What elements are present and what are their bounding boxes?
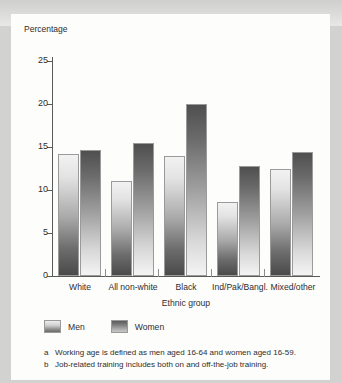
y-tick-label-15: 15 [38, 141, 48, 151]
bar-women-mixed-other[interactable] [292, 152, 313, 276]
x-group-separator [211, 269, 212, 277]
x-category-label-white: White [69, 282, 91, 292]
bar-men-white[interactable] [58, 154, 79, 276]
plot-area: 0 5 10 15 20 [52, 61, 320, 276]
bar-women-ind-pak-bangl[interactable] [239, 166, 260, 276]
footnote-text-a: Working age is defined as men aged 16-64… [55, 347, 296, 359]
footnote-text-b: Job-related training includes both on an… [55, 359, 268, 371]
bar-men-mixed-other[interactable] [270, 169, 291, 277]
x-category-label-ind-pak-bangl: Ind/Pak/Bangl. [212, 282, 268, 292]
legend-item-women[interactable]: Women [111, 320, 164, 333]
y-axis-line [52, 57, 53, 276]
bar-men-black[interactable] [164, 156, 185, 276]
x-category-label-mixed-other: Mixed/other [271, 282, 316, 292]
x-group-separator [158, 269, 159, 277]
y-axis-title: Percentage [24, 24, 67, 34]
bar-chart-figure: Percentage 0 5 10 [11, 14, 330, 380]
legend-item-men[interactable]: Men [44, 320, 85, 333]
y-tick-label-10: 10 [38, 184, 48, 194]
footnote-marker-a: a [44, 347, 50, 359]
x-axis-title: Ethnic group [52, 298, 320, 308]
y-tick-label-0: 0 [43, 270, 48, 280]
bar-women-white[interactable] [80, 150, 101, 276]
x-category-label-black: Black [175, 282, 196, 292]
y-tick-label-25: 25 [38, 55, 48, 65]
chart-legend: Men Women [44, 320, 164, 333]
x-axis-line [52, 276, 320, 277]
bar-men-ind-pak-bangl[interactable] [217, 202, 238, 276]
footnote-b: b Job-related training includes both on … [44, 359, 324, 371]
footnote-a: a Working age is defined as men aged 16-… [44, 347, 324, 359]
legend-label-men: Men [68, 322, 85, 332]
x-category-label-all-non-white: All non-white [108, 282, 157, 292]
y-tick-label-20: 20 [38, 98, 48, 108]
scanned-page-background: Percentage 0 5 10 [0, 0, 342, 383]
legend-swatch-women-icon [111, 320, 128, 333]
bar-women-black[interactable] [186, 104, 207, 276]
footnote-marker-b: b [44, 359, 50, 371]
x-group-separator [105, 269, 106, 277]
legend-swatch-men-icon [44, 320, 61, 333]
legend-label-women: Women [135, 322, 164, 332]
x-group-separator [264, 269, 265, 277]
chart-sheet: Percentage 0 5 10 [11, 14, 330, 380]
bar-men-all-non-white[interactable] [111, 181, 132, 276]
bar-women-all-non-white[interactable] [133, 143, 154, 276]
y-tick-label-5: 5 [43, 227, 48, 237]
footnotes: a Working age is defined as men aged 16-… [44, 347, 324, 371]
